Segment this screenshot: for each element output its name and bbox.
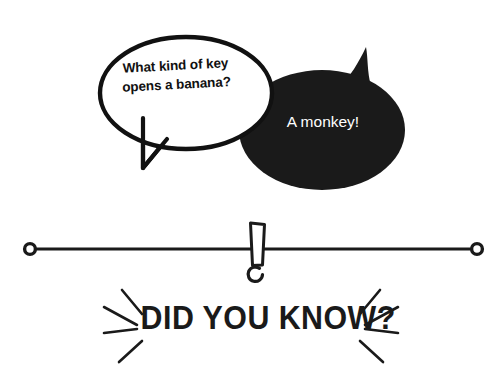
banner-rays-left xyxy=(104,290,142,362)
divider-right-dot-icon xyxy=(472,244,483,255)
banner-ray-left-3 xyxy=(104,329,137,333)
did-you-know-heading: DID YOU KNOW? xyxy=(141,301,362,335)
exclamation-mark-icon xyxy=(248,223,264,281)
exclamation-bar xyxy=(251,223,265,266)
answer-bubble-text: A monkey! xyxy=(263,113,383,131)
banner-ray-left-1 xyxy=(122,290,142,314)
divider-left-dot-icon xyxy=(25,244,36,255)
poster-canvas: What kind of key opens a banana? A monke… xyxy=(0,0,502,387)
banner-ray-right-4 xyxy=(360,341,383,362)
exclamation-dot xyxy=(248,267,262,281)
banner-ray-left-4 xyxy=(119,341,142,362)
banner-ray-left-2 xyxy=(104,307,137,325)
question-bubble-text: What kind of key opens a banana? xyxy=(111,53,241,98)
